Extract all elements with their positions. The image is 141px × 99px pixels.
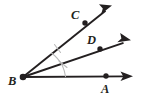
ray-ba	[23, 72, 133, 82]
ray-bc	[23, 4, 112, 77]
angle-dba-arc	[63, 66, 66, 77]
point-label-d: D	[86, 33, 96, 47]
vertex-dot-b	[20, 74, 27, 81]
point-label-b: B	[7, 74, 16, 88]
point-label-c: C	[71, 8, 80, 22]
ray-bd	[23, 33, 131, 77]
point-dot-a	[103, 73, 108, 78]
angle-congruence-marks	[52, 45, 68, 77]
ray-bd-arrowhead	[117, 33, 131, 42]
ray-bc-arrowhead	[99, 4, 112, 14]
ray-ba-line	[23, 76, 126, 77]
point-dot-d	[97, 46, 102, 51]
point-label-a: A	[100, 82, 109, 96]
angle-diagram-canvas: B C D A	[0, 0, 141, 99]
ray-bd-line	[23, 43, 124, 77]
angle-cbd-arc	[52, 53, 63, 66]
geometry-figure: B C D A	[0, 0, 141, 99]
point-dot-c	[82, 20, 87, 25]
